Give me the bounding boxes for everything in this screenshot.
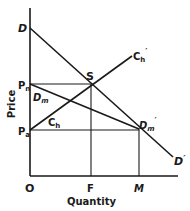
label-Pn: Pn	[18, 80, 30, 93]
home-supply-curve-Ch	[30, 56, 132, 130]
label-F: F	[87, 183, 94, 194]
label-Dm: Dm	[33, 92, 49, 105]
label-origin: O	[25, 182, 34, 195]
y-axis-label: Price	[6, 90, 17, 119]
label-Dm-prime: Dm′	[139, 117, 158, 133]
label-D: D	[18, 22, 27, 35]
diagram-canvas: D S Ch′ Pn Dm Ch Pa Dm′ D′ O F M Quantit…	[0, 0, 190, 211]
label-S: S	[86, 70, 94, 83]
label-M: M	[134, 183, 144, 194]
label-D-prime: D′	[174, 154, 186, 168]
label-Pa: Pa	[18, 126, 30, 139]
label-Ch-prime: Ch′	[133, 48, 147, 64]
x-axis-label: Quantity	[67, 196, 116, 207]
label-Ch: Ch	[48, 117, 60, 130]
